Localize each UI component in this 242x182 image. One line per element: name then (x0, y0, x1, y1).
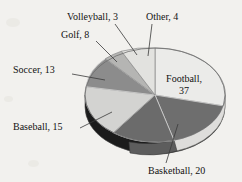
pie-label-soccer: Soccer, 13 (13, 64, 55, 75)
pie-label-volleyball: Volleyball, 3 (67, 11, 118, 22)
pie-label-basketball: Basketball, 20 (148, 165, 205, 176)
pie-label-football: Football, 37 (160, 73, 208, 96)
pie-label-other: Other, 4 (146, 11, 178, 22)
pie-label-football-line2: 37 (179, 85, 189, 96)
pie-chart: Volleyball, 3 Other, 4 Golf, 8 Soccer, 1… (0, 0, 242, 182)
pie-label-golf: Golf, 8 (61, 29, 89, 40)
pie-label-football-line1: Football, (166, 73, 202, 84)
pie-label-baseball: Baseball, 15 (13, 121, 62, 132)
